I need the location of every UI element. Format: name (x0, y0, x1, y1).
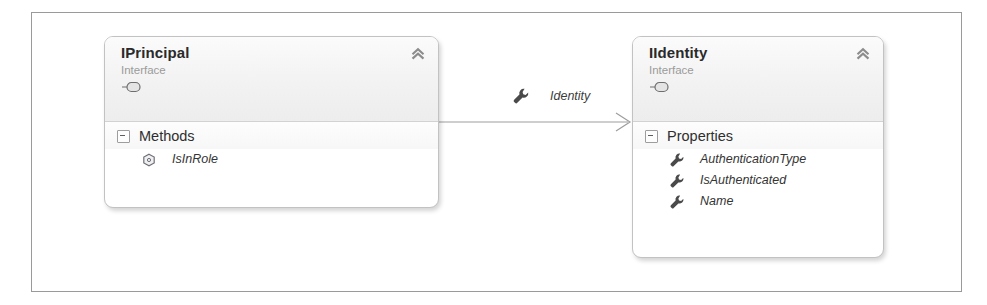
property-wrench-icon (669, 152, 685, 168)
member-row[interactable]: Name (633, 191, 883, 212)
member-label: IsInRole (172, 151, 218, 168)
section-properties[interactable]: Properties (633, 122, 883, 149)
interface-lollipop-icon (649, 81, 671, 93)
chevron-double-up-icon[interactable] (410, 46, 426, 62)
chevron-double-up-icon[interactable] (855, 46, 871, 62)
class-stereotype: Interface (649, 63, 873, 78)
property-wrench-icon (669, 194, 685, 210)
association-label: Identity (550, 89, 590, 103)
property-wrench-icon (669, 173, 685, 189)
member-label: AuthenticationType (700, 151, 806, 168)
member-label: Name (700, 193, 733, 210)
card-body-iprincipal: Methods IsInRole (105, 122, 438, 170)
member-row[interactable]: AuthenticationType (633, 149, 883, 170)
member-row[interactable]: IsInRole (105, 149, 438, 170)
wrench-icon (512, 87, 530, 105)
class-stereotype: Interface (121, 63, 428, 78)
section-methods[interactable]: Methods (105, 122, 438, 149)
member-label: IsAuthenticated (700, 172, 786, 189)
class-title: IPrincipal (121, 44, 428, 62)
section-label: Properties (667, 127, 733, 145)
card-header-iidentity[interactable]: IIdentity Interface (633, 37, 883, 122)
section-label: Methods (139, 127, 195, 145)
member-row[interactable]: IsAuthenticated (633, 170, 883, 191)
card-body-iidentity: Properties AuthenticationType IsAuthenti… (633, 122, 883, 212)
class-card-iidentity[interactable]: IIdentity Interface Properties Authentic… (632, 36, 884, 258)
method-hexagon-icon (141, 152, 157, 168)
class-title: IIdentity (649, 44, 873, 62)
interface-lollipop-icon (121, 81, 143, 93)
collapse-minus-box-icon[interactable] (645, 130, 658, 143)
collapse-minus-box-icon[interactable] (117, 130, 130, 143)
card-header-iprincipal[interactable]: IPrincipal Interface (105, 37, 438, 122)
class-card-iprincipal[interactable]: IPrincipal Interface Methods IsInRole (104, 36, 439, 208)
